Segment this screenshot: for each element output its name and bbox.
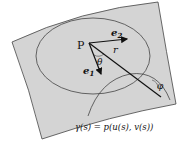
phi-label: φ [157,81,164,91]
surface-diagram: P e2 e1 r θ φ γ(s) = p(u(s), v(s)) [0,0,183,145]
point-label: P [77,39,85,52]
curve-equation: γ(s) = p(u(s), v(s)) [75,122,153,132]
theta-label: θ [97,57,103,67]
